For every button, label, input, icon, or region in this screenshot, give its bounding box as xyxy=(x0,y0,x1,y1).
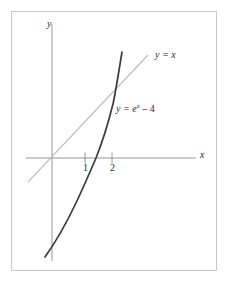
curve-equation-label: y = ex – 4 xyxy=(116,104,155,114)
curve-label-suffix: – 4 xyxy=(140,103,155,114)
y-axis-label: y xyxy=(47,19,51,29)
curve-label-prefix: y = e xyxy=(116,103,137,114)
figure-root: y x 1 2 y = x y = ex – 4 xyxy=(0,0,230,284)
series-line-y-equals-x xyxy=(28,55,148,182)
tick-label-2: 2 xyxy=(110,163,115,173)
x-axis-label: x xyxy=(200,150,204,160)
plot-canvas xyxy=(0,0,230,284)
series-curve-exponential xyxy=(45,52,122,257)
line-equation-label: y = x xyxy=(155,50,176,60)
tick-label-1: 1 xyxy=(83,163,88,173)
